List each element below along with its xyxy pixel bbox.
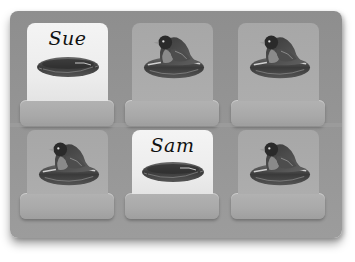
card-name: Sue: [27, 27, 108, 49]
card-name: Sam: [132, 134, 213, 156]
empty-nest-icon: [140, 160, 206, 184]
card-2[interactable]: [238, 23, 319, 101]
bird-in-nest-icon: [248, 29, 312, 81]
bird-in-nest-icon: [37, 136, 101, 188]
card-1[interactable]: [132, 23, 213, 101]
empty-nest-icon: [35, 55, 101, 79]
card-0[interactable]: Sue: [27, 23, 108, 101]
card-shelf: [20, 100, 114, 126]
card-shelf: [20, 193, 114, 219]
bird-in-nest-icon: [248, 136, 312, 188]
card-5[interactable]: [238, 130, 319, 194]
card-shelf: [231, 193, 325, 219]
card-shelf: [125, 100, 219, 126]
card-3[interactable]: [27, 130, 108, 194]
card-4[interactable]: Sam: [132, 130, 213, 194]
bird-in-nest-icon: [142, 29, 206, 81]
card-shelf: [125, 193, 219, 219]
card-shelf: [231, 100, 325, 126]
game-board: Sue Sam: [10, 11, 342, 238]
